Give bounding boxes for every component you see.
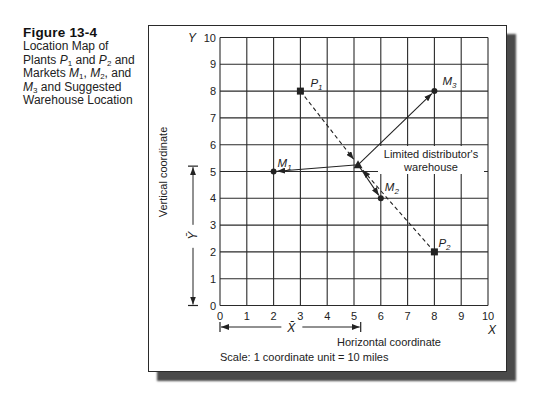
plant-p1-square-icon bbox=[297, 88, 304, 95]
y-tick-label: 0 bbox=[210, 300, 216, 312]
y-tick-label: 7 bbox=[210, 112, 216, 124]
flow-arrow-p2-to-w bbox=[363, 170, 435, 252]
x-tick-label: 4 bbox=[324, 310, 330, 322]
flow-arrow-w-to-m2 bbox=[358, 165, 379, 196]
x-tick-label: 8 bbox=[431, 310, 437, 322]
location-map-chart: 012345678910012345678910 P1P2M1M2M3 X̄Ȳ … bbox=[0, 0, 540, 394]
y-tick-label: 6 bbox=[210, 139, 216, 151]
y-tick-label: 8 bbox=[210, 85, 216, 97]
x-axis-title: Horizontal coordinate bbox=[337, 336, 441, 348]
point-label-m1: M1 bbox=[278, 157, 292, 172]
y-tick-label: 4 bbox=[210, 192, 216, 204]
warehouse-label-line-2: warehouse bbox=[403, 161, 458, 173]
scale-note: Scale: 1 coordinate unit = 10 miles bbox=[220, 351, 389, 363]
point-label-m3: M3 bbox=[442, 75, 457, 90]
market-m2-dot-icon bbox=[378, 195, 384, 201]
y-tick-label: 1 bbox=[210, 273, 216, 285]
y-bar-label: Ȳ bbox=[186, 231, 200, 240]
x-tick-label: 2 bbox=[271, 310, 277, 322]
warehouse-label-line-1: Limited distributor's bbox=[384, 148, 479, 160]
point-label-p1: P1 bbox=[310, 77, 322, 92]
x-tick-label: 7 bbox=[405, 310, 411, 322]
y-axis-letter: Y bbox=[188, 31, 197, 45]
x-axis-letter: X bbox=[487, 323, 497, 337]
x-tick-label: 3 bbox=[297, 310, 303, 322]
point-label-m2: M2 bbox=[385, 181, 400, 196]
x-tick-label: 5 bbox=[351, 310, 357, 322]
x-tick-label: 10 bbox=[482, 310, 494, 322]
x-tick-label: 6 bbox=[378, 310, 384, 322]
y-tick-label: 5 bbox=[210, 166, 216, 178]
x-tick-label: 9 bbox=[458, 310, 464, 322]
market-m1-dot-icon bbox=[271, 169, 277, 175]
y-tick-label: 3 bbox=[210, 219, 216, 231]
x-bar-label: X̄ bbox=[286, 321, 296, 335]
y-tick-label: 2 bbox=[210, 246, 216, 258]
market-m3-dot-icon bbox=[431, 88, 437, 94]
y-tick-label: 9 bbox=[210, 58, 216, 70]
x-tick-label: 1 bbox=[244, 310, 250, 322]
y-axis-title: Vertical coordinate bbox=[157, 127, 169, 218]
point-label-p2: P2 bbox=[438, 237, 451, 252]
x-tick-label: 0 bbox=[217, 310, 223, 322]
y-tick-label: 10 bbox=[204, 32, 216, 44]
plant-p2-square-icon bbox=[431, 248, 438, 255]
